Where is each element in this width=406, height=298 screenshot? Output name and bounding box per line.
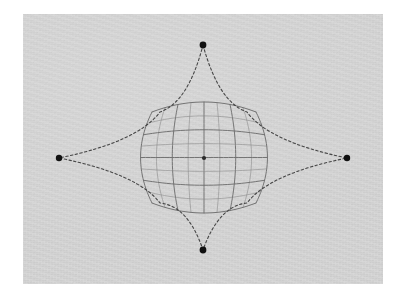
right-vertex xyxy=(344,155,350,161)
four-point-star-dashed-curve xyxy=(59,45,347,250)
left-vertex xyxy=(56,155,62,161)
center-marker xyxy=(202,156,206,160)
star-outline-path xyxy=(59,45,347,250)
top-vertex xyxy=(200,42,207,49)
figure-root: Light gray panel showing a dashed four-p… xyxy=(0,0,406,298)
center-marker xyxy=(202,156,206,160)
bottom-vertex xyxy=(200,247,207,254)
diagram-vector-layer xyxy=(0,0,406,298)
